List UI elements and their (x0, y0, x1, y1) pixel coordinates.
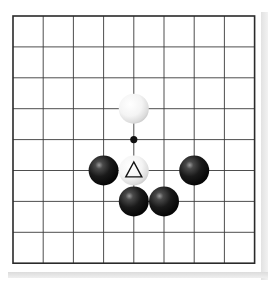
white-stone (119, 94, 149, 124)
black-stone (179, 156, 209, 186)
go-board (0, 0, 277, 286)
star-point (130, 136, 137, 143)
black-stone (149, 186, 179, 216)
black-stone (119, 186, 149, 216)
black-stone (89, 156, 119, 186)
star-points (130, 136, 137, 143)
white-stone (119, 156, 149, 186)
